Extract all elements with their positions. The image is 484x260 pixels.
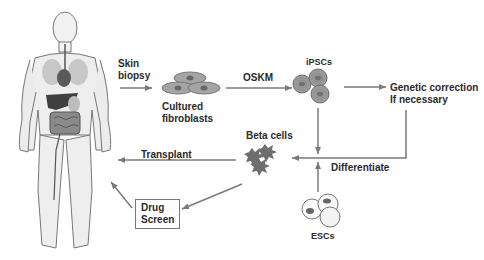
ipsc-cells-icon xyxy=(293,69,329,103)
fibroblast-cells-icon xyxy=(162,72,220,94)
genetic-correction-line2: If necessary xyxy=(390,94,478,106)
genetic-correction-label: Genetic correction If necessary xyxy=(390,82,478,106)
diagram-canvas xyxy=(0,0,484,260)
transplant-label: Transplant xyxy=(141,149,192,161)
drug-screen-line2: Screen xyxy=(141,214,174,226)
differentiate-label: Differentiate xyxy=(331,162,389,174)
skin-biopsy-line1: Skin xyxy=(118,58,150,70)
fibroblasts-label: Cultured fibroblasts xyxy=(162,101,213,125)
drug-screen-line1: Drug xyxy=(141,202,174,214)
drug-screen-box: Drug Screen xyxy=(135,199,180,229)
fibroblasts-line1: Cultured xyxy=(162,101,213,113)
ipscs-label: iPSCs xyxy=(306,56,332,68)
esc-cells-icon xyxy=(302,194,340,227)
human-body-figure xyxy=(19,12,110,248)
oskm-label: OSKM xyxy=(243,72,273,84)
beta-cells-label: Beta cells xyxy=(246,130,293,142)
arrow-differentiate xyxy=(292,110,406,158)
arrow-to-drug-screen xyxy=(182,184,242,209)
fibroblasts-line2: fibroblasts xyxy=(162,113,213,125)
beta-cells-icon xyxy=(244,144,277,176)
genetic-correction-line1: Genetic correction xyxy=(390,82,478,94)
escs-label: ESCs xyxy=(311,230,335,242)
arrow-drug-to-human xyxy=(111,182,132,208)
skin-biopsy-label: Skin biopsy xyxy=(118,58,150,82)
skin-biopsy-line2: biopsy xyxy=(118,70,150,82)
